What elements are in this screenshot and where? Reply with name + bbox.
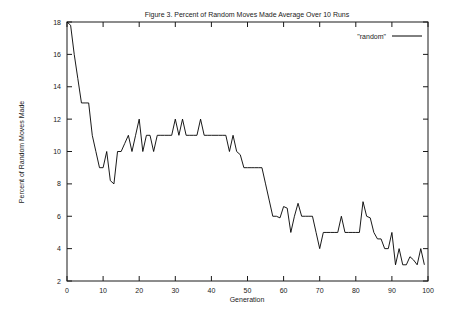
x-tick-label: 0 <box>65 287 69 294</box>
x-tick-label: 60 <box>280 287 288 294</box>
y-tick-label: 10 <box>53 148 61 155</box>
x-tick-label: 10 <box>99 287 107 294</box>
x-tick-label: 100 <box>422 287 434 294</box>
chart-title: Figure 3. Percent of Random Moves Made A… <box>145 11 350 19</box>
x-tick-label: 30 <box>171 287 179 294</box>
y-tick-label: 2 <box>57 278 61 285</box>
y-tick-label: 18 <box>53 19 61 26</box>
figure-container: Figure 3. Percent of Random Moves Made A… <box>0 0 458 317</box>
x-tick-label: 40 <box>208 287 216 294</box>
x-tick-label: 20 <box>135 287 143 294</box>
line-chart: Figure 3. Percent of Random Moves Made A… <box>0 0 458 317</box>
y-axis-title: Percent of Random Moves Made <box>18 101 25 203</box>
y-tick-label: 6 <box>57 213 61 220</box>
x-axis-title: Generation <box>230 296 265 303</box>
x-tick-label: 50 <box>244 287 252 294</box>
y-tick-label: 14 <box>53 83 61 90</box>
x-tick-label: 90 <box>388 287 396 294</box>
y-tick-label: 8 <box>57 180 61 187</box>
legend-label-random: "random" <box>357 33 386 40</box>
x-tick-label: 80 <box>352 287 360 294</box>
chart-background <box>0 0 458 317</box>
y-tick-label: 4 <box>57 245 61 252</box>
x-tick-label: 70 <box>316 287 324 294</box>
y-tick-label: 12 <box>53 116 61 123</box>
y-tick-label: 16 <box>53 51 61 58</box>
